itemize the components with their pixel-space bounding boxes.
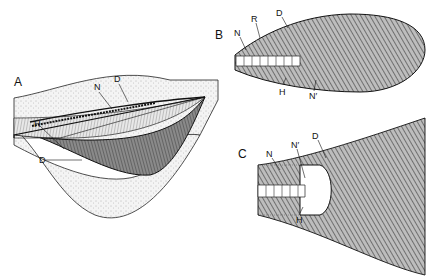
panel-a-notochord-label: N <box>94 83 101 92</box>
panel-b-label: B <box>215 29 223 41</box>
fish-tail-anatomy-figure: A N D H D B N R D H N′ C N N′ D H <box>0 0 435 280</box>
panel-a-dermal-ray-lower-label: D <box>39 156 46 165</box>
panel-c-notochord-prime-label: N′ <box>291 141 299 150</box>
panel-a-dermal-ray-label: D <box>114 75 121 84</box>
panel-b-notochord-prime-label: N′ <box>309 92 317 101</box>
panel-a-drawing <box>14 75 218 218</box>
panel-c-hypural-label: H <box>296 216 303 225</box>
panel-b-radial-label: R <box>251 15 258 24</box>
panel-b-dermal-ray-label: D <box>276 9 283 18</box>
panel-b-notochord-label: N <box>234 29 241 38</box>
panel-b-hypural-label: H <box>279 88 286 97</box>
panel-a-label: A <box>14 76 22 88</box>
panel-b-drawing <box>235 14 425 92</box>
panel-c-notochord-label: N <box>266 150 273 159</box>
figure-drawing <box>0 0 435 280</box>
panel-c-dermal-ray-label: D <box>312 132 319 141</box>
panel-a-hypural-label: H <box>34 120 41 129</box>
panel-c-drawing <box>258 118 425 275</box>
panel-c-label: C <box>238 148 247 160</box>
